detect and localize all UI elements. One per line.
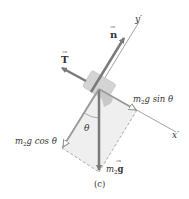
normal-force-label: n	[110, 29, 118, 40]
weight-vector-mark: →	[116, 157, 121, 164]
tension-label: T	[61, 54, 69, 65]
x-prime-label: x′	[172, 130, 179, 140]
weight-cos-label: m2g cos θ	[15, 136, 57, 147]
weight-sin-label: m2g sin θ	[133, 94, 173, 105]
angle-theta-label: θ	[84, 123, 90, 133]
y-prime-label: y′	[134, 14, 142, 24]
free-body-diagram: y′ x′ → n → T m2g sin θ m2g cos θ θ → m2…	[0, 0, 189, 199]
tension-arrow	[62, 68, 86, 81]
weight-label: m2g	[106, 164, 124, 175]
figure-caption: (c)	[94, 179, 105, 189]
